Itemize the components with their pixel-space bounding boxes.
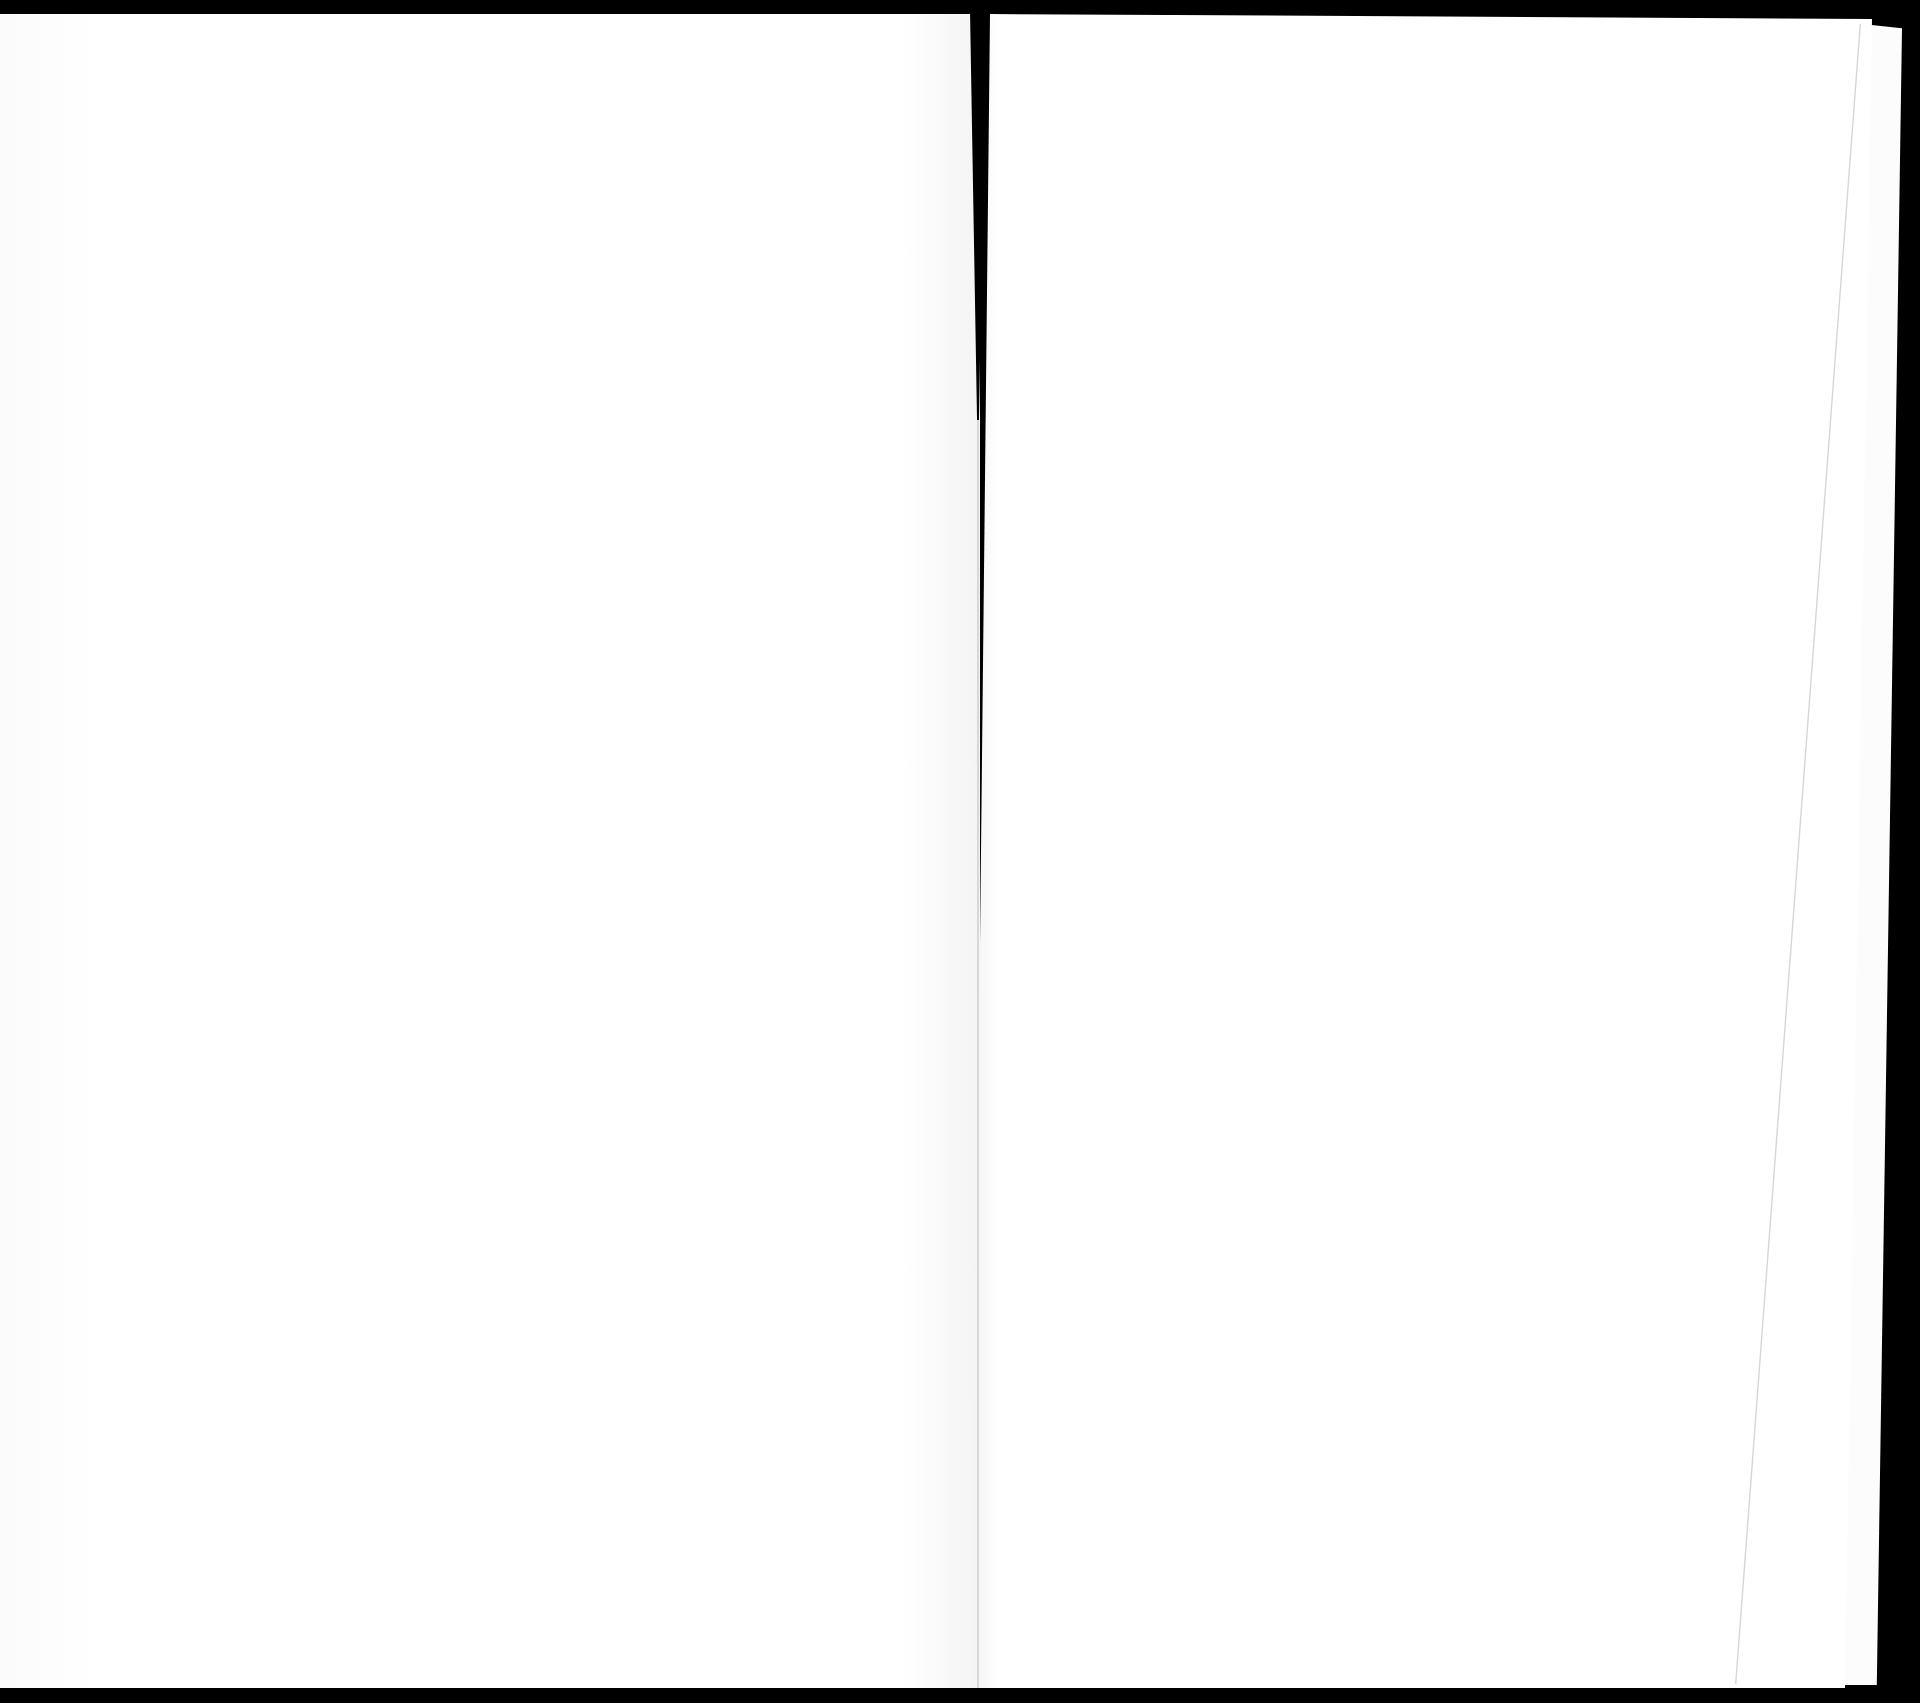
bottom-scan-border	[0, 1688, 1920, 1703]
left-page	[0, 14, 980, 1688]
scanned-spread	[0, 0, 1920, 1703]
right-page	[972, 14, 1872, 1688]
gutter-fold-line	[977, 420, 979, 1688]
top-scan-border	[0, 0, 1920, 14]
